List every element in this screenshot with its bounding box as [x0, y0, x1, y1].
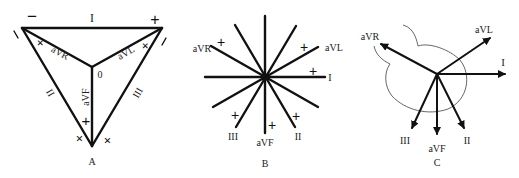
caption-c: C	[434, 157, 441, 168]
label-lead-i: I	[90, 11, 94, 25]
label-lead-iii: III	[130, 86, 145, 100]
label-avl: aVL	[115, 43, 136, 61]
ecg-lead-axis-diagram: − I + + + aVR aVL 0 aVF II III + + + A a…	[0, 0, 519, 178]
label-avf: aVF	[80, 88, 91, 106]
center-point	[262, 74, 269, 81]
plus-sign: +	[300, 39, 308, 55]
label-lead-iii: III	[228, 131, 238, 142]
plus-sign: +	[231, 107, 239, 123]
caption-b: B	[262, 158, 269, 169]
plus-sign: +	[292, 108, 300, 124]
lead-iii-vector-arrow	[412, 74, 437, 128]
vector-loop-curve	[374, 25, 467, 112]
label-avf: aVF	[256, 137, 274, 148]
label-avr: aVR	[193, 43, 212, 54]
panel-a-einthoven-triangle: − I + + + aVR aVL 0 aVF II III + + + A	[14, 7, 166, 167]
avl-vector-arrow	[437, 38, 490, 74]
plus-sign: +	[150, 11, 159, 28]
avr-vector-arrow	[381, 44, 437, 74]
label-avr: aVR	[50, 43, 72, 61]
plus-sign: +	[99, 132, 116, 149]
label-avl: aVL	[475, 24, 493, 35]
plus-sign: +	[268, 117, 276, 133]
label-center-0: 0	[98, 69, 103, 80]
lead-ii-vector-arrow	[437, 74, 464, 128]
plus-sign: +	[309, 63, 317, 79]
label-avf: aVF	[428, 143, 446, 154]
label-lead-ii: II	[295, 131, 302, 142]
label-lead-ii: II	[44, 87, 57, 98]
panel-c-vector-loop: aVR aVL I II aVF III C	[361, 24, 505, 168]
minus-sign: −	[27, 7, 37, 26]
panel-b-hexaxial-reference: aVR + aVL + I + + III + aVF + II B	[193, 16, 343, 169]
plus-sign: +	[71, 130, 88, 147]
plus-sign: +	[82, 112, 91, 129]
label-lead-iii: III	[400, 135, 410, 146]
tick-mark	[162, 38, 166, 45]
label-lead-i: I	[328, 72, 331, 83]
tick-mark	[14, 31, 18, 38]
label-lead-i: I	[501, 56, 505, 68]
label-avl: aVL	[325, 42, 343, 53]
label-lead-ii: II	[464, 135, 471, 146]
plus-sign: +	[217, 34, 225, 50]
caption-a: A	[88, 156, 96, 167]
label-avr: aVR	[361, 31, 380, 42]
